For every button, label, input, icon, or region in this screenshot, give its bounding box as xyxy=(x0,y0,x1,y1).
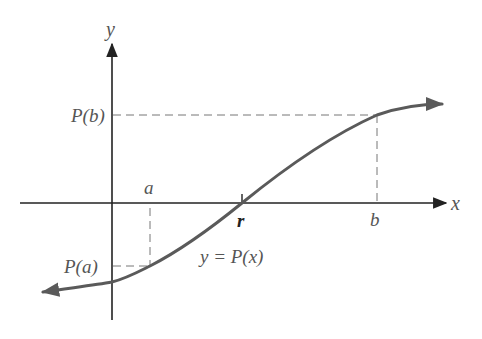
b-label: b xyxy=(370,209,380,230)
curve-label: y = P(x) xyxy=(198,246,263,268)
r-label: r xyxy=(237,210,245,231)
y-axis-label: y xyxy=(104,18,115,41)
x-axis-label: x xyxy=(450,192,460,214)
ivt-diagram: y x P(b) P(a) a b r y = P(x) xyxy=(0,0,482,339)
a-label: a xyxy=(144,177,154,198)
p-a-label: P(a) xyxy=(63,256,98,278)
p-b-label: P(b) xyxy=(70,105,105,127)
